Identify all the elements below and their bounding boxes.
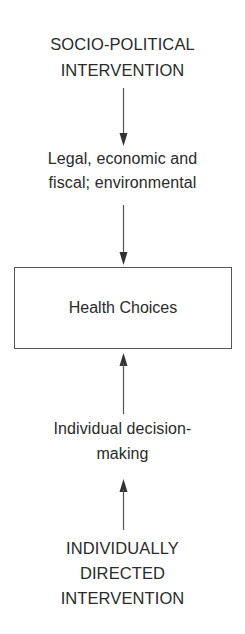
arrow-down-icon bbox=[120, 205, 128, 265]
arrow-up-icon bbox=[120, 479, 128, 530]
arrow-up-icon bbox=[120, 353, 128, 414]
arrows-layer bbox=[0, 0, 245, 634]
arrow-down-icon bbox=[120, 88, 128, 146]
